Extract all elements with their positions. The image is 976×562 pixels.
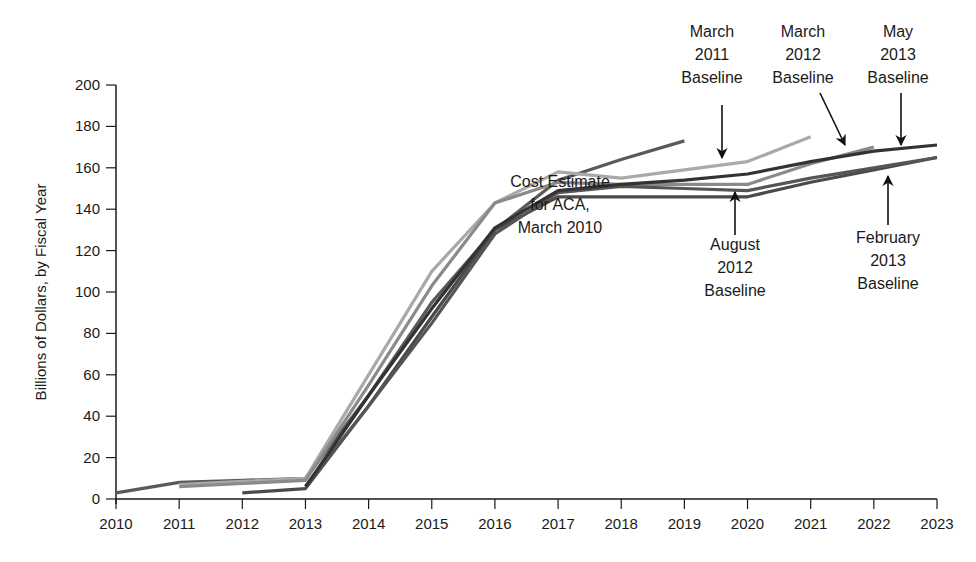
annotation-text: Baseline bbox=[704, 282, 765, 299]
annotation-text: Baseline bbox=[857, 275, 918, 292]
x-axis: 2010201120122013201420152016201720182019… bbox=[99, 499, 953, 532]
annotation-text: 2012 bbox=[785, 46, 821, 63]
x-tick-label: 2013 bbox=[289, 515, 322, 532]
annotation-text: Baseline bbox=[867, 69, 928, 86]
annotation-text: for ACA, bbox=[530, 196, 590, 213]
y-tick-label: 80 bbox=[83, 324, 100, 341]
annotation-text: March 2010 bbox=[518, 219, 603, 236]
x-tick-label: 2016 bbox=[478, 515, 511, 532]
y-tick-label: 20 bbox=[83, 449, 100, 466]
annotation-text: Baseline bbox=[772, 69, 833, 86]
x-tick-label: 2017 bbox=[541, 515, 574, 532]
annotation: March2012Baseline bbox=[772, 23, 845, 145]
x-tick-label: 2023 bbox=[920, 515, 953, 532]
x-tick-label: 2019 bbox=[668, 515, 701, 532]
annotation-text: 2013 bbox=[870, 252, 906, 269]
annotation-text: March bbox=[690, 23, 734, 40]
annotation: May2013Baseline bbox=[867, 23, 928, 145]
y-axis: 020406080100120140160180200 bbox=[75, 76, 116, 507]
y-tick-label: 100 bbox=[75, 283, 100, 300]
x-tick-label: 2020 bbox=[731, 515, 764, 532]
annotation-text: May bbox=[883, 23, 913, 40]
y-tick-label: 0 bbox=[92, 490, 100, 507]
series-line bbox=[179, 147, 874, 487]
x-tick-label: 2022 bbox=[857, 515, 890, 532]
y-tick-label: 120 bbox=[75, 242, 100, 259]
x-tick-label: 2021 bbox=[794, 515, 827, 532]
x-tick-label: 2011 bbox=[163, 515, 195, 532]
series-layer bbox=[116, 137, 937, 493]
y-tick-label: 60 bbox=[83, 366, 100, 383]
y-tick-label: 140 bbox=[75, 200, 100, 217]
line-chart: 020406080100120140160180200 201020112012… bbox=[0, 0, 976, 562]
annotation-text: March bbox=[781, 23, 825, 40]
annotation-text: February bbox=[856, 229, 920, 246]
annotation-text: Baseline bbox=[681, 69, 742, 86]
annotation-layer: Cost Estimatefor ACA,March 2010March2011… bbox=[510, 23, 929, 299]
annotation: August2012Baseline bbox=[704, 192, 765, 299]
annotation: March2011Baseline bbox=[681, 23, 742, 158]
x-tick-label: 2012 bbox=[226, 515, 259, 532]
annotation-text: August bbox=[710, 236, 760, 253]
annotation-text: 2013 bbox=[880, 46, 916, 63]
y-tick-label: 180 bbox=[75, 117, 100, 134]
annotation-text: Cost Estimate bbox=[510, 173, 610, 190]
arrow-icon bbox=[820, 93, 845, 145]
y-axis-label: Billions of Dollars, by Fiscal Year bbox=[32, 184, 49, 401]
x-tick-label: 2010 bbox=[99, 515, 132, 532]
x-tick-label: 2015 bbox=[415, 515, 448, 532]
series-line bbox=[116, 141, 684, 493]
y-tick-label: 200 bbox=[75, 76, 100, 93]
annotation-text: 2011 bbox=[695, 46, 730, 63]
x-tick-label: 2014 bbox=[352, 515, 385, 532]
annotation: February2013Baseline bbox=[856, 176, 920, 292]
y-tick-label: 40 bbox=[83, 407, 100, 424]
y-tick-label: 160 bbox=[75, 159, 100, 176]
x-tick-label: 2018 bbox=[605, 515, 638, 532]
annotation-text: 2012 bbox=[717, 259, 753, 276]
